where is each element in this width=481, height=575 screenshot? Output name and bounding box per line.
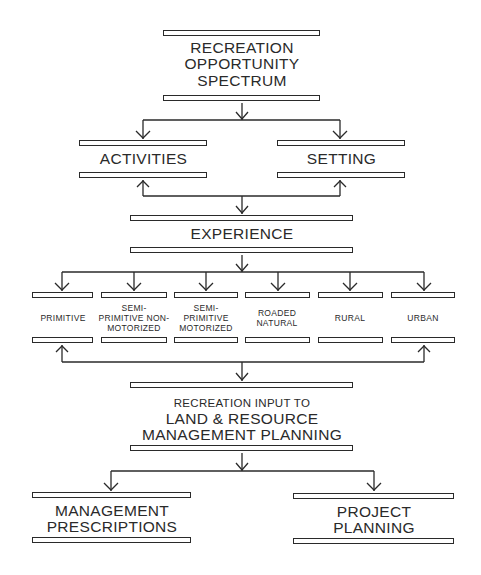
class-spnm-bottom-bar <box>101 337 167 343</box>
class-rural-label: RURAL <box>315 314 385 324</box>
class-roaded-natural-bottom-bar <box>245 337 310 343</box>
project-top-bar <box>293 493 454 499</box>
activities-bottom-bar <box>79 172 207 178</box>
ros-node-label: RECREATION OPPORTUNITY SPECTRUM <box>150 40 334 89</box>
setting-top-bar <box>277 140 405 146</box>
class-primitive-bottom-bar <box>32 337 93 343</box>
input-bottom-bar <box>130 445 353 451</box>
activities-top-bar <box>79 140 207 146</box>
class-spm-top-bar <box>174 292 238 298</box>
ros-top-bar <box>163 30 320 36</box>
class-rural-bottom-bar <box>318 337 383 343</box>
input-node-line2: LAND & RESOURCE MANAGEMENT PLANNING <box>125 411 359 444</box>
ros-bottom-bar <box>163 95 320 101</box>
experience-bottom-bar <box>130 247 353 253</box>
class-spnm-top-bar <box>101 292 167 298</box>
prescriptions-bottom-bar <box>32 537 191 543</box>
class-spm-label: SEMI- PRIMITIVE MOTORIZED <box>170 304 242 333</box>
input-node-line1: RECREATION INPUT TO <box>130 397 354 409</box>
experience-top-bar <box>130 215 353 221</box>
prescriptions-node-label: MANAGEMENT PRESCRIPTIONS <box>32 503 192 536</box>
setting-bottom-bar <box>277 172 405 178</box>
class-spnm-label: SEMI- PRIMITIVE NON- MOTORIZED <box>94 304 174 333</box>
project-node-label: PROJECT PLANNING <box>293 504 455 537</box>
class-urban-top-bar <box>391 292 455 298</box>
activities-node-label: ACTIVITIES <box>79 151 208 167</box>
input-top-bar <box>130 382 353 388</box>
class-rural-top-bar <box>318 292 383 298</box>
setting-node-label: SETTING <box>277 151 406 167</box>
class-spm-bottom-bar <box>174 337 238 343</box>
experience-node-label: EXPERIENCE <box>130 226 354 242</box>
class-primitive-label: PRIMITIVE <box>28 314 98 324</box>
class-urban-label: URBAN <box>388 314 458 324</box>
class-roaded-natural-top-bar <box>245 292 310 298</box>
class-roaded-natural-label: ROADED NATURAL <box>242 309 312 329</box>
project-bottom-bar <box>293 538 454 544</box>
class-primitive-top-bar <box>32 292 93 298</box>
class-urban-bottom-bar <box>391 337 455 343</box>
prescriptions-top-bar <box>32 492 191 498</box>
